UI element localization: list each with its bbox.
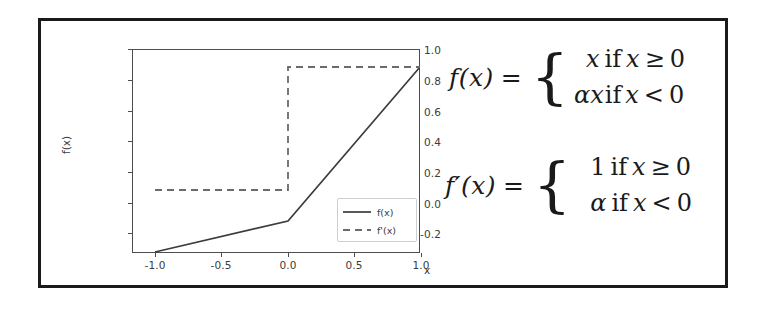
equation-f-case-0: x if x ≥ 0 (574, 41, 685, 77)
xtick-mark-0 (155, 253, 156, 257)
equation-f-case-0-relation: ≥ (645, 41, 665, 77)
x-axis-label: x (424, 264, 430, 276)
equation-f-definition: f(x) = { x if x ≥ 0 αx if x < 0 (449, 41, 685, 114)
figure-frame: 1.0 0.8 0.6 0.4 0.2 0.0 -0.2 -1.0 -0.5 0… (38, 18, 728, 288)
legend-swatch-solid (343, 207, 371, 217)
equation-fprime-case-0: 1 if x ≥ 0 (576, 149, 692, 185)
equation-fprime-case-0-relation: ≥ (651, 149, 671, 185)
xtick-label-0: -1.0 (130, 259, 180, 271)
equation-f-case-1-keyword: if (605, 77, 622, 113)
equation-f-case-0-keyword: if (605, 41, 622, 77)
xtick-label-1: -0.5 (196, 259, 246, 271)
legend-label-f: f(x) (377, 207, 393, 218)
legend-label-fprime: f'(x) (377, 225, 396, 236)
left-brace-icon-2: { (533, 160, 571, 209)
equation-f-case-1-expr: αx (574, 77, 604, 113)
xtick-label-4: 1.0 (396, 259, 446, 271)
equation-fprime-case-1-value: 0 (677, 185, 692, 221)
legend-swatch-dashed (343, 225, 371, 235)
equation-fprime-case-1-relation: < (652, 185, 672, 221)
xtick-mark-2 (288, 253, 289, 257)
y-axis-label: f(x) (60, 136, 72, 154)
legend-entry-fprime: f'(x) (343, 222, 415, 238)
equation-fprime-case-1-var: x (633, 185, 647, 221)
xtick-mark-3 (354, 253, 355, 257)
equation-f-case-1-relation: < (644, 77, 664, 113)
equation-f-equals: = (501, 63, 522, 92)
equation-fprime-lhs: f′(x) (445, 171, 496, 200)
xtick-label-3: 0.5 (329, 259, 379, 271)
xtick-mark-4 (421, 253, 422, 257)
equation-f-lhs: f(x) (449, 63, 494, 92)
equation-f-case-0-expr: x (586, 41, 600, 77)
equation-f-cases: x if x ≥ 0 αx if x < 0 (574, 41, 685, 114)
equation-f-case-1-value: 0 (669, 77, 684, 113)
equation-fprime-case-1: α if x < 0 (576, 185, 692, 221)
equation-fprime-case-0-expr: 1 (590, 149, 605, 185)
xtick-label-2: 0.0 (263, 259, 313, 271)
equation-f-prime-definition: f′(x) = { 1 if x ≥ 0 α if x < 0 (445, 149, 692, 222)
legend-entry-f: f(x) (343, 204, 415, 220)
equation-fprime-case-0-var: x (632, 149, 646, 185)
equation-f-case-1-var: x (625, 77, 639, 113)
math-area: f(x) = { x if x ≥ 0 αx if x < 0 (445, 27, 727, 279)
equation-f-case-0-var: x (626, 41, 640, 77)
equation-f-case-0-value: 0 (670, 41, 685, 77)
equation-fprime-equals: = (503, 171, 524, 200)
equation-fprime-cases: 1 if x ≥ 0 α if x < 0 (576, 149, 692, 222)
plot-area: 1.0 0.8 0.6 0.4 0.2 0.0 -0.2 -1.0 -0.5 0… (41, 21, 441, 285)
xtick-mark-1 (221, 253, 222, 257)
equation-fprime-case-1-keyword: if (611, 185, 628, 221)
equation-fprime-case-0-value: 0 (676, 149, 691, 185)
equation-fprime-case-1-expr: α (590, 185, 606, 221)
plot-legend[interactable]: f(x) f'(x) (337, 198, 417, 242)
equation-fprime-case-0-keyword: if (610, 149, 627, 185)
equation-f-case-1: αx if x < 0 (574, 77, 685, 113)
series-fprime-line (155, 67, 420, 190)
left-brace-icon: { (531, 52, 569, 101)
